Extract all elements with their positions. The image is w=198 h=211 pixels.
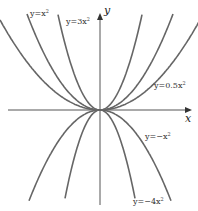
y-axis-arrow-icon bbox=[97, 13, 103, 20]
y-axis-label: y bbox=[104, 4, 110, 17]
label-x2: y=x2 bbox=[30, 9, 49, 18]
label-0.5x2: y=0.5x2 bbox=[154, 81, 186, 90]
label-neg-x2: y=−x2 bbox=[145, 132, 171, 141]
parabola-family-chart: y x y=x2 y=3x2 y=0.5x2 y=−x2 y=−4x2 bbox=[0, 0, 198, 211]
label-3x2: y=3x2 bbox=[66, 17, 90, 26]
x-axis-label: x bbox=[185, 112, 191, 125]
chart-canvas bbox=[0, 0, 198, 211]
label-neg-4x2: y=−4x2 bbox=[133, 197, 164, 206]
curve-y=0.5x^2 bbox=[0, 20, 198, 110]
